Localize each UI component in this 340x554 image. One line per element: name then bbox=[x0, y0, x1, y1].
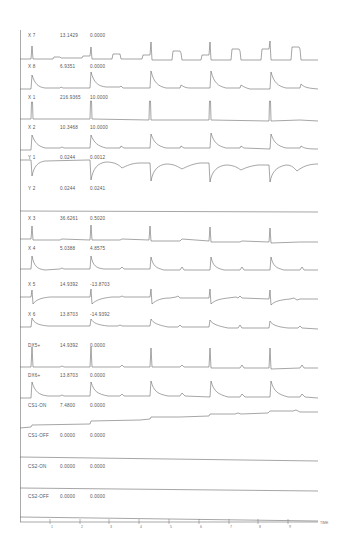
time-ticks bbox=[50, 519, 288, 524]
trace-cs2-on bbox=[20, 488, 318, 491]
trace-label-name: Y 1 bbox=[28, 155, 35, 160]
trace-label-max: 216.9365 bbox=[60, 95, 81, 100]
trace-cs1-off bbox=[20, 457, 318, 461]
trace-label-max: 0.0244 bbox=[60, 186, 75, 191]
trace-label-max: 14.9392 bbox=[60, 343, 78, 348]
trace-label-name: X 8 bbox=[28, 64, 36, 69]
trace-label-max: 5.0388 bbox=[60, 246, 75, 251]
trace-label-min: 0.0012 bbox=[90, 155, 105, 160]
tick-label: 4 bbox=[140, 525, 142, 529]
trace-x7 bbox=[20, 41, 318, 60]
trace-label-name: X 5 bbox=[28, 282, 36, 287]
tick-label: 7 bbox=[230, 525, 232, 529]
trace-label-max: 6.9351 bbox=[60, 64, 75, 69]
trace-label-min: 0.0000 bbox=[90, 64, 105, 69]
trace-label-max: 0.0000 bbox=[60, 464, 75, 469]
tick-label: 8 bbox=[259, 525, 261, 529]
trace-label-min: 0.5020 bbox=[90, 216, 105, 221]
tick-label: 5 bbox=[170, 525, 172, 529]
trace-x4 bbox=[20, 256, 318, 270]
trace-canvas: 1 2 3 4 5 6 7 8 9 TIME bbox=[0, 0, 340, 554]
trace-label-max: 13.8703 bbox=[60, 312, 78, 317]
trace-label-max: 0.0000 bbox=[60, 494, 75, 499]
trace-label-max: 36.6261 bbox=[60, 216, 78, 221]
trace-label-min: 10.0000 bbox=[90, 95, 108, 100]
trace-label-max: 13.8703 bbox=[60, 373, 78, 378]
trace-label-min: -14.9392 bbox=[90, 312, 110, 317]
trace-label-name: X 7 bbox=[28, 33, 36, 38]
tick-label: 2 bbox=[81, 525, 83, 529]
tick-label: 6 bbox=[200, 525, 202, 529]
trace-x2 bbox=[20, 133, 318, 150]
trace-label-name: X 4 bbox=[28, 246, 36, 251]
trace-label-min: 0.0000 bbox=[90, 464, 105, 469]
stacked-trace-plot: 1 2 3 4 5 6 7 8 9 TIME X 7 13.1429 0.000… bbox=[0, 0, 340, 554]
trace-y2 bbox=[20, 211, 318, 212]
trace-label-min: 0.0000 bbox=[90, 33, 105, 38]
trace-label-name: DX6+ bbox=[28, 373, 40, 378]
trace-label-max: 7.4800 bbox=[60, 403, 75, 408]
trace-label-min: 0.0000 bbox=[90, 343, 105, 348]
trace-label-min: 0.0000 bbox=[90, 494, 105, 499]
trace-label-max: 14.9392 bbox=[60, 282, 78, 287]
trace-label-name: X 3 bbox=[28, 216, 36, 221]
trace-label-max: 13.1429 bbox=[60, 33, 78, 38]
tick-label: 3 bbox=[110, 525, 112, 529]
trace-x6 bbox=[20, 318, 318, 329]
trace-label-name: X 2 bbox=[28, 125, 36, 130]
trace-label-max: 10.3468 bbox=[60, 125, 78, 130]
trace-label-name: CS2-ON bbox=[28, 464, 47, 469]
tick-label: 1 bbox=[51, 525, 53, 529]
trace-label-min: 4.8575 bbox=[90, 246, 105, 251]
trace-x8 bbox=[20, 71, 318, 89]
trace-y1 bbox=[20, 160, 318, 182]
tick-label: 9 bbox=[289, 525, 291, 529]
trace-label-min: 10.0000 bbox=[90, 125, 108, 130]
trace-label-name: Y 2 bbox=[28, 186, 35, 191]
trace-label-name: DX5+ bbox=[28, 343, 40, 348]
trace-label-min: -13.8703 bbox=[90, 282, 110, 287]
time-axis-label: TIME bbox=[320, 521, 329, 525]
trace-label-max: 0.0000 bbox=[60, 433, 75, 438]
trace-dx6plus bbox=[20, 381, 318, 398]
trace-label-min: 0.0000 bbox=[90, 433, 105, 438]
trace-label-max: 0.0244 bbox=[60, 155, 75, 160]
trace-dx5plus bbox=[20, 347, 318, 369]
trace-label-min: 0.0000 bbox=[90, 403, 105, 408]
trace-label-name: X 6 bbox=[28, 312, 36, 317]
trace-label-name: CS1-OFF bbox=[28, 433, 49, 438]
trace-x1 bbox=[20, 101, 318, 121]
trace-label-name: CS1-ON bbox=[28, 403, 47, 408]
trace-label-name: X 1 bbox=[28, 95, 36, 100]
trace-x3 bbox=[20, 225, 318, 243]
trace-label-name: CS2-OFF bbox=[28, 494, 49, 499]
trace-label-min: 0.0241 bbox=[90, 186, 105, 191]
trace-x5 bbox=[20, 289, 318, 305]
trace-label-min: 0.0000 bbox=[90, 373, 105, 378]
trace-cs1-on bbox=[20, 410, 318, 428]
